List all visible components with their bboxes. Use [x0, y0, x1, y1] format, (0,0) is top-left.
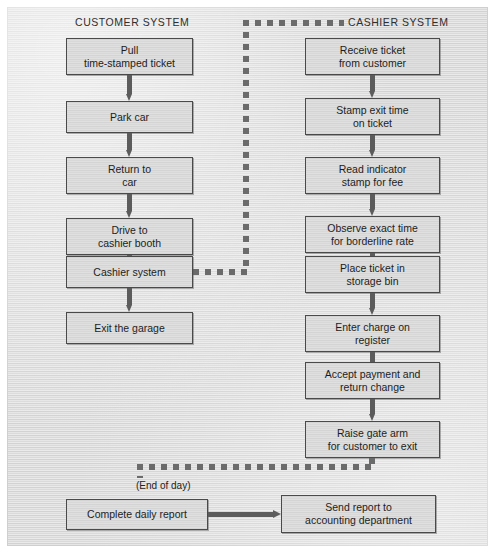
box-line-1: Complete daily report — [87, 508, 187, 521]
box-line-1: Park car — [110, 111, 149, 124]
box-line-2: stamp for fee — [339, 176, 407, 189]
process-box-return-to-car[interactable]: Return to car — [66, 157, 193, 194]
process-box-accept-payment[interactable]: Accept payment and return change — [305, 362, 440, 399]
arrow-pull-to-park — [126, 75, 133, 101]
box-line-2: on ticket — [336, 117, 408, 130]
arrow-stamp-to-read — [369, 135, 376, 157]
arrow-park-to-return — [126, 133, 133, 157]
arrow-receive-to-stamp — [369, 75, 376, 98]
process-box-stamp-exit-time[interactable]: Stamp exit time on ticket — [305, 98, 440, 135]
process-box-cashier-system[interactable]: Cashier system — [66, 256, 193, 288]
column-heading-customer-system: CUSTOMER SYSTEM — [75, 16, 189, 28]
arrow-return-to-drive — [126, 194, 133, 218]
process-box-enter-charge-register[interactable]: Enter charge on register — [305, 315, 440, 352]
dashed-divider-vertical — [243, 20, 249, 272]
dashed-end-of-day-horizontal — [137, 464, 375, 470]
arrow-read-to-observe — [369, 194, 376, 216]
process-box-drive-to-cashier-booth[interactable]: Drive to cashier booth — [66, 218, 193, 255]
box-line-1: Read indicator — [339, 163, 407, 176]
box-line-1: Accept payment and — [325, 368, 421, 381]
end-of-day-note: (End of day) — [136, 480, 190, 491]
column-heading-cashier-system: CASHIER SYSTEM — [348, 16, 448, 28]
box-line-1: Enter charge on — [335, 321, 410, 334]
arrow-cashier-system-to-exit — [126, 288, 133, 312]
box-line-1: Receive ticket — [339, 44, 406, 57]
dashed-connector-to-cashier-system — [193, 269, 249, 275]
box-line-2: from customer — [339, 57, 406, 70]
box-line-2: accounting department — [305, 514, 412, 527]
process-box-place-ticket-storage-bin[interactable]: Place ticket in storage bin — [305, 256, 440, 293]
arrow-accept-to-raise — [369, 399, 376, 421]
dashed-divider-top — [243, 20, 344, 26]
box-line-1: Pull — [84, 44, 175, 57]
process-box-park-car[interactable]: Park car — [66, 101, 193, 133]
process-box-send-report-accounting[interactable]: Send report to accounting department — [281, 495, 436, 533]
box-line-2: for borderline rate — [327, 235, 417, 248]
box-line-1: Place ticket in — [340, 262, 405, 275]
box-line-1: Send report to — [305, 501, 412, 514]
box-line-1: Observe exact time — [327, 222, 417, 235]
flowchart-canvas: CUSTOMER SYSTEM CASHIER SYSTEM Pull time… — [0, 0, 495, 552]
process-box-observe-exact-time[interactable]: Observe exact time for borderline rate — [305, 216, 440, 253]
process-box-receive-ticket[interactable]: Receive ticket from customer — [305, 38, 440, 75]
box-line-1: Exit the garage — [94, 322, 165, 335]
box-line-1: Stamp exit time — [336, 104, 408, 117]
box-line-1: Raise gate arm — [328, 427, 417, 440]
arrow-place-to-enter — [369, 293, 376, 315]
process-box-read-indicator-stamp[interactable]: Read indicator stamp for fee — [305, 157, 440, 194]
box-line-2: time-stamped ticket — [84, 57, 175, 70]
box-line-2: cashier booth — [98, 237, 161, 250]
box-line-1: Return to — [108, 163, 151, 176]
arrow-complete-to-send-report — [208, 510, 281, 519]
box-line-1: Drive to — [98, 224, 161, 237]
process-box-pull-ticket[interactable]: Pull time-stamped ticket — [66, 38, 193, 75]
box-line-2: car — [108, 176, 151, 189]
box-line-1: Cashier system — [93, 266, 165, 279]
box-line-2: register — [335, 334, 410, 347]
process-box-complete-daily-report[interactable]: Complete daily report — [66, 499, 208, 530]
box-line-2: for customer to exit — [328, 440, 417, 453]
process-box-raise-gate-arm[interactable]: Raise gate arm for customer to exit — [305, 421, 440, 458]
process-box-exit-the-garage[interactable]: Exit the garage — [66, 312, 193, 344]
box-line-2: return change — [325, 381, 421, 394]
box-line-2: storage bin — [340, 275, 405, 288]
dashed-end-of-day-down-left — [137, 464, 143, 478]
